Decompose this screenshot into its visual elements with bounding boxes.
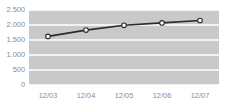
x-axis-tick-label: 12/04 <box>77 91 96 100</box>
line-chart: 05001.0001.5002.0002.500 12/0312/0412/05… <box>0 0 225 107</box>
x-axis-tick-label: 12/05 <box>115 91 134 100</box>
y-axis-tick-labels: 05001.0001.5002.0002.500 <box>7 5 26 89</box>
data-point-marker <box>198 18 203 23</box>
x-axis-tick-label: 12/07 <box>191 91 210 100</box>
y-axis-tick-label: 0 <box>21 80 25 89</box>
data-point-marker <box>160 21 165 26</box>
x-axis-tick-label: 12/06 <box>153 91 172 100</box>
x-axis-tick-labels: 12/0312/0412/0512/0612/07 <box>39 91 210 100</box>
y-axis-tick-label: 1.000 <box>7 50 26 59</box>
y-axis-tick-label: 1.500 <box>7 35 26 44</box>
y-axis-tick-label: 500 <box>13 65 25 74</box>
data-point-marker <box>84 28 89 33</box>
x-axis-tick-label: 12/03 <box>39 91 58 100</box>
chart-canvas: 05001.0001.5002.0002.500 12/0312/0412/05… <box>0 0 225 107</box>
data-point-marker <box>46 34 51 39</box>
y-axis-tick-label: 2.000 <box>7 20 26 29</box>
data-point-marker <box>122 23 127 28</box>
y-axis-tick-label: 2.500 <box>7 5 26 14</box>
